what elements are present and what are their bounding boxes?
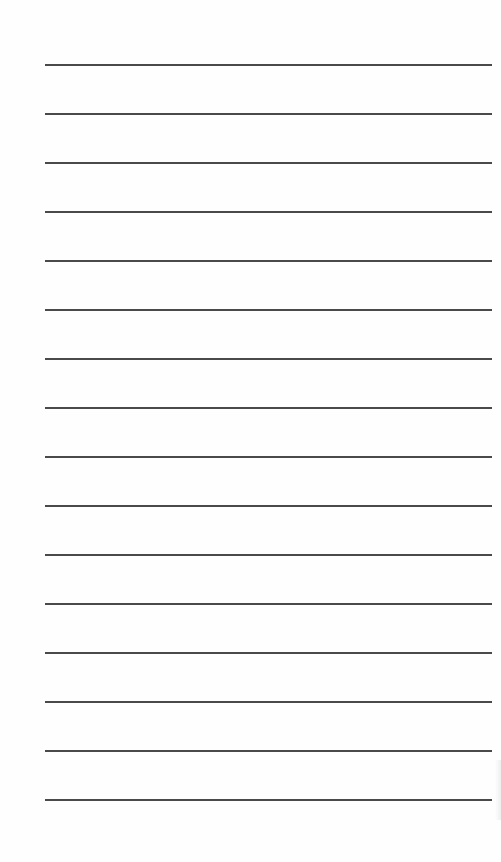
ruled-line [45,260,492,262]
ruled-line [45,505,492,507]
ruled-line [45,113,492,115]
ruled-line [45,309,492,311]
ruled-line [45,799,492,801]
ruled-line [45,750,492,752]
ruled-line [45,456,492,458]
edge-shadow [495,760,501,820]
ruled-line [45,701,492,703]
ruled-line [45,64,492,66]
ruled-line [45,652,492,654]
ruled-line [45,407,492,409]
ruled-line [45,211,492,213]
ruled-line [45,162,492,164]
ruled-line [45,603,492,605]
ruled-line [45,358,492,360]
lined-paper-sheet [0,0,501,862]
ruled-line [45,554,492,556]
